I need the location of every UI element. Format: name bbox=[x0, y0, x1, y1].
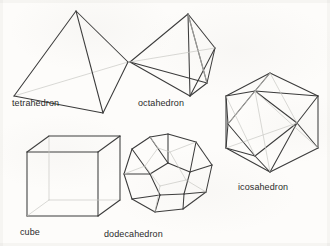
dodecahedron-edge bbox=[160, 194, 184, 195]
tetrahedron-edge bbox=[14, 11, 76, 96]
octahedron-edge bbox=[188, 14, 190, 96]
cube-connector-edge bbox=[98, 136, 120, 152]
icosahedron-edge bbox=[297, 96, 318, 123]
label-cube: cube bbox=[20, 228, 40, 237]
octahedron-edge bbox=[130, 62, 190, 96]
dodecahedron-hidden-edge bbox=[145, 148, 158, 166]
dodecahedron-outline-edge bbox=[124, 149, 132, 174]
dodecahedron-edge bbox=[184, 192, 206, 194]
label-octahedron: octahedron bbox=[138, 99, 184, 108]
solids-drawing bbox=[0, 0, 330, 246]
octahedron-edge bbox=[207, 48, 215, 83]
dodecahedron-edge bbox=[190, 165, 212, 172]
icosahedron-edge bbox=[226, 148, 255, 156]
octahedron-edge bbox=[190, 48, 215, 96]
label-dodecahedron: dodecahedron bbox=[104, 230, 163, 239]
tetrahedron-edge bbox=[76, 11, 103, 113]
dodecahedron-hidden-edge bbox=[170, 142, 196, 152]
dodecahedron-outline-edge bbox=[155, 209, 183, 212]
dodecahedron-outline-edge bbox=[206, 165, 212, 192]
icosahedron-edge bbox=[270, 123, 297, 172]
icosahedron-hidden-edge bbox=[255, 91, 318, 148]
octahedron-edge bbox=[190, 83, 207, 96]
icosahedron-outline-edge bbox=[226, 148, 270, 172]
dodecahedron-edge bbox=[183, 194, 184, 209]
octahedron-edge bbox=[130, 14, 188, 62]
dodecahedron-edge bbox=[190, 142, 196, 172]
icosahedron-edge bbox=[297, 123, 318, 148]
dodecahedron-hidden-edge bbox=[170, 152, 186, 180]
dodecahedron-hidden-edge bbox=[150, 137, 158, 148]
dodecahedron-edge bbox=[150, 163, 168, 174]
label-tetrahedron: tetrahedron bbox=[12, 99, 59, 108]
dodecahedron-outline-edge bbox=[150, 134, 168, 137]
label-icosahedron: icosahedron bbox=[238, 183, 288, 192]
dodecahedron-edge bbox=[132, 195, 160, 199]
icosahedron-hidden-edge bbox=[270, 73, 297, 123]
dodecahedron-hidden-edge bbox=[186, 180, 206, 192]
tetrahedron-hidden-edge bbox=[14, 62, 128, 96]
dodecahedron-outline-edge bbox=[124, 174, 132, 199]
octahedron-hidden-edge bbox=[130, 48, 215, 62]
cube-connector-edge bbox=[98, 200, 120, 216]
icosahedron-edge bbox=[255, 123, 297, 156]
dodecahedron-hidden-edge bbox=[124, 166, 145, 174]
dodecahedron-outline-edge bbox=[132, 199, 155, 212]
octahedron-edge bbox=[188, 14, 215, 48]
tetrahedron-edge bbox=[103, 62, 128, 113]
platonic-solids-figure: tetrahedron octahedron icosahedron cube … bbox=[0, 0, 330, 246]
dodecahedron-outline-edge bbox=[183, 192, 206, 209]
cube-hidden-edge bbox=[27, 200, 49, 216]
dodecahedron-outline-edge bbox=[132, 137, 150, 149]
dodecahedron-edge bbox=[184, 172, 190, 194]
cube-connector-edge bbox=[27, 136, 49, 152]
dodecahedron-outline-edge bbox=[168, 134, 196, 142]
tetrahedron-edge bbox=[76, 11, 128, 62]
icosahedron-edge bbox=[255, 91, 297, 123]
octahedron-edge bbox=[130, 62, 207, 83]
dodecahedron-hidden-edge bbox=[160, 180, 186, 186]
octahedron-hidden-edge bbox=[188, 14, 207, 83]
icosahedron-hidden-edge bbox=[255, 91, 270, 172]
dodecahedron-outline-edge bbox=[196, 142, 212, 165]
